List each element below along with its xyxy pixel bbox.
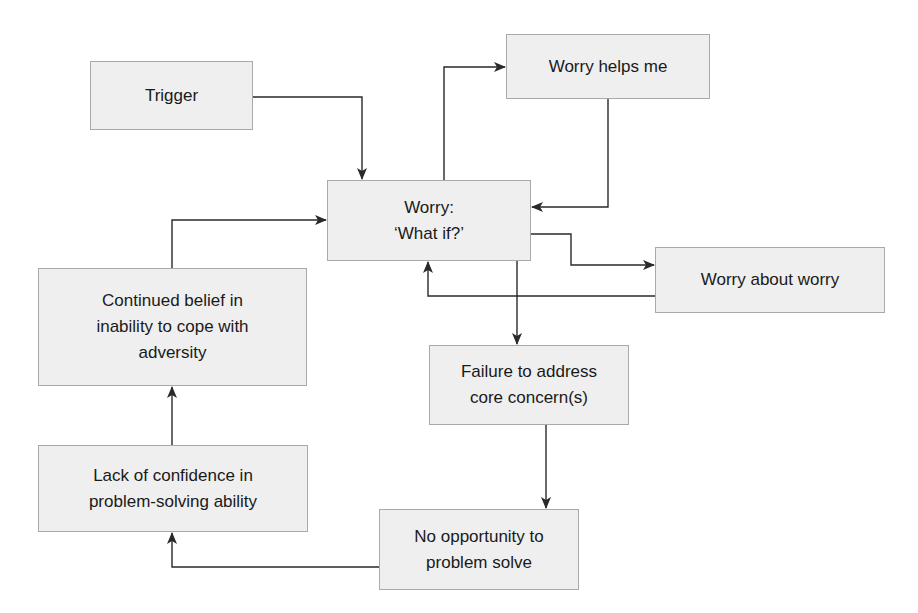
node-continued-belief-line2: inability to cope with <box>96 314 248 340</box>
node-continued-belief: Continued belief in inability to cope wi… <box>38 268 307 386</box>
node-no-opportunity-line2: problem solve <box>426 550 532 576</box>
node-no-opportunity-line1: No opportunity to <box>414 524 543 550</box>
node-failure-line1: Failure to address <box>461 359 597 385</box>
node-worry-label-line2: ‘What if?’ <box>394 221 464 247</box>
node-lack-confidence-line1: Lack of confidence in <box>93 463 253 489</box>
node-lack-confidence-line2: problem-solving ability <box>89 489 257 515</box>
edge-worry-about-worry-to-worry <box>428 262 655 296</box>
node-worry-label-line1: Worry: <box>404 195 454 221</box>
node-trigger: Trigger <box>90 61 253 130</box>
node-worry-what-if: Worry: ‘What if?’ <box>327 180 531 261</box>
worry-cycle-diagram: Trigger Worry helps me Worry: ‘What if?’… <box>0 0 918 613</box>
node-failure-to-address: Failure to address core concern(s) <box>429 345 629 425</box>
edge-worry-helps-to-worry <box>532 99 608 207</box>
edge-no-opportunity-to-lack-confidence <box>172 533 379 567</box>
node-worry-helps-me: Worry helps me <box>506 34 710 99</box>
node-worry-about-worry: Worry about worry <box>655 247 885 313</box>
node-continued-belief-line1: Continued belief in <box>102 288 243 314</box>
node-failure-line2: core concern(s) <box>470 385 588 411</box>
edge-worry-to-worry-about-worry <box>531 234 654 265</box>
edge-continued-belief-to-worry <box>172 220 326 268</box>
edge-worry-to-worry-helps <box>444 67 505 180</box>
node-worry-about-worry-label: Worry about worry <box>701 267 840 293</box>
node-trigger-label: Trigger <box>145 83 198 109</box>
node-continued-belief-line3: adversity <box>138 340 206 366</box>
node-no-opportunity: No opportunity to problem solve <box>379 509 579 590</box>
node-worry-helps-me-label: Worry helps me <box>549 54 668 80</box>
node-lack-of-confidence: Lack of confidence in problem-solving ab… <box>38 445 308 532</box>
edge-trigger-to-worry <box>253 97 362 179</box>
